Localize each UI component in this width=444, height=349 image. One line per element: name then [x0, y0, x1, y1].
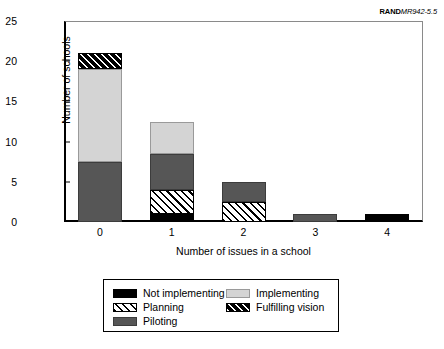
figure: RANDMR942-5.5 Number of schools 05101520… [0, 0, 444, 349]
legend-swatch-not-implementing [113, 289, 137, 298]
legend-label-implementing: Implementing [256, 288, 319, 299]
bar-stack [78, 21, 122, 222]
x-axis-tick-label: 2 [224, 226, 264, 238]
bar-stack [150, 21, 194, 222]
y-axis-tick-label: 0 [0, 216, 17, 228]
y-axis-tick-label: 15 [0, 95, 17, 107]
source-id-number: MR942-5.5 [401, 7, 437, 16]
legend-item-implementing: Implementing [226, 288, 335, 299]
y-axis-tick-label: 10 [0, 136, 17, 148]
legend-swatch-implementing [226, 289, 250, 298]
x-axis-title: Number of issues in a school [64, 245, 423, 257]
bar-stack [365, 21, 409, 222]
bar-segment-piloting [78, 162, 122, 222]
bar-segment-planning [150, 190, 194, 214]
x-axis-tick-label: 1 [152, 226, 192, 238]
y-axis-tick-label: 25 [0, 15, 17, 27]
legend-swatch-piloting [113, 317, 137, 326]
y-axis-tick-label: 20 [0, 55, 17, 67]
y-axis-tick-label: 5 [0, 176, 17, 188]
x-axis-tick-label: 4 [367, 226, 407, 238]
legend-label-not-implementing: Not implementing [143, 288, 225, 299]
legend-label-planning: Planning [143, 302, 184, 313]
legend-label-piloting: Piloting [143, 316, 177, 327]
legend-item-planning: Planning [113, 302, 226, 313]
bar-segment-implementing [150, 122, 194, 154]
bar-segment-implementing [78, 69, 122, 161]
bar-segment-piloting [222, 182, 266, 202]
bar-stack [222, 21, 266, 222]
bar-segment-piloting [293, 214, 337, 222]
legend-item-fulfilling-vision: Fulfilling vision [226, 302, 335, 313]
bars-layer [64, 21, 423, 222]
source-id-brand: RAND [380, 7, 401, 16]
legend-item-piloting: Piloting [113, 316, 226, 327]
legend-swatch-fulfilling-vision [226, 303, 250, 312]
legend-item-not-implementing: Not implementing [113, 288, 226, 299]
bar-segment-fulfilling-vision [78, 53, 122, 69]
legend-label-fulfilling-vision: Fulfilling vision [256, 302, 324, 313]
bar-segment-not-implementing [150, 214, 194, 222]
legend-swatch-planning [113, 303, 137, 312]
bar-stack [293, 21, 337, 222]
legend: Not implementingImplementingPlanningFulf… [103, 279, 339, 332]
source-id: RANDMR942-5.5 [380, 7, 437, 16]
x-axis-tick-label: 0 [80, 226, 120, 238]
x-axis-tick-label: 3 [295, 226, 335, 238]
bar-segment-planning [222, 202, 266, 222]
bar-segment-not-implementing [365, 214, 409, 222]
bar-segment-piloting [150, 154, 194, 190]
